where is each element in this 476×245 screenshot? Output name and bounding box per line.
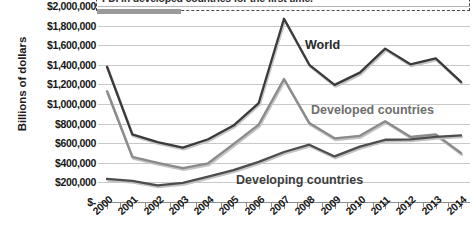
- annotation-callout-text: FDI in developed countries for the first…: [102, 0, 313, 4]
- y-axis-tick-label: $1,400,000: [47, 59, 96, 71]
- y-axis-tick-label: $2,000,000: [47, 0, 96, 12]
- y-axis-tick-label: $1,800,000: [47, 20, 96, 32]
- y-axis-tick-label: $200,000: [55, 176, 96, 188]
- y-axis-tick-labels: $2,000,000$1,800,000$1,600,000$1,400,000…: [22, 0, 96, 212]
- series-line-shadow: [108, 81, 462, 170]
- y-axis-tick-label: $1,000,000: [47, 98, 96, 110]
- series-label-developed-countries: Developed countries: [311, 103, 434, 117]
- y-axis-tick-label: $400,000: [55, 157, 96, 169]
- y-axis-tick-label: $1,600,000: [47, 39, 96, 51]
- series-label-world: World: [305, 38, 340, 52]
- chart-container: FDI in developed countries for the first…: [0, 0, 476, 245]
- y-axis-tick-label: $800,000: [55, 118, 96, 130]
- series-line-shadow: [108, 20, 462, 149]
- series-label-developing-countries: Developing countries: [236, 173, 363, 187]
- y-axis-tick-label: $600,000: [55, 137, 96, 149]
- y-axis-tick-label: $1,200,000: [47, 78, 96, 90]
